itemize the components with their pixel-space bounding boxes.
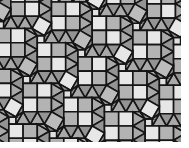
tile-polygon	[133, 85, 147, 99]
tile-polygon	[37, 83, 51, 97]
tile-polygon	[50, 131, 57, 138]
tile-polygon	[119, 85, 133, 99]
tile-polygon	[52, 57, 66, 71]
tile-polygon	[92, 71, 106, 85]
tile-polygon	[92, 30, 106, 44]
tile-polygon	[9, 124, 23, 138]
tile-polygon	[52, 16, 66, 30]
tile-polygon	[104, 112, 118, 126]
tile-polygon	[78, 112, 92, 126]
tile-polygon	[159, 126, 173, 140]
tile-polygon	[147, 30, 161, 44]
tile-polygon	[133, 71, 147, 85]
tiling-pattern	[0, 0, 189, 148]
tile-polygon	[37, 57, 51, 71]
tile-polygon	[11, 29, 25, 43]
tile-polygon	[78, 98, 92, 112]
tile-polygon	[119, 112, 133, 126]
tile-polygon	[106, 16, 120, 30]
tile-polygon	[159, 78, 166, 85]
tile-polygon	[64, 98, 78, 112]
tile-polygon	[23, 124, 37, 138]
tile-polygon	[78, 57, 92, 71]
tile-polygon	[11, 43, 25, 57]
tile-polygon	[133, 23, 140, 30]
tile-polygon	[133, 45, 147, 59]
tile-polygon	[133, 30, 147, 44]
tile-polygon	[145, 119, 152, 126]
tile-polygon	[52, 43, 66, 57]
tile-polygon	[119, 126, 133, 140]
tile-polygon	[145, 126, 159, 140]
tile-polygon	[0, 69, 11, 83]
tile-polygon	[66, 2, 80, 16]
tile-polygon	[37, 43, 51, 57]
tile-polygon	[37, 36, 44, 43]
tile-polygon	[9, 117, 16, 124]
tile-polygon	[161, 4, 175, 18]
tile-polygon	[159, 100, 173, 114]
tile-polygon	[147, 45, 161, 59]
tile-polygon	[64, 112, 78, 126]
tile-polygon	[0, 83, 11, 97]
tile-polygon	[78, 71, 92, 85]
tile-polygon	[66, 16, 80, 30]
tessellation-svg	[0, 0, 189, 148]
tile-polygon	[78, 50, 85, 57]
tile-polygon	[0, 29, 11, 43]
tile-polygon	[159, 85, 173, 99]
tile-polygon	[147, 4, 161, 18]
tile-polygon	[23, 98, 37, 112]
tile-polygon	[23, 76, 30, 83]
tile-polygon	[92, 16, 106, 30]
tile-polygon	[119, 64, 126, 71]
tile-polygon	[92, 9, 99, 16]
tessellation-image	[0, 0, 189, 148]
tile-polygon	[25, 2, 39, 16]
tile-polygon	[52, 2, 66, 16]
tile-polygon	[0, 43, 11, 57]
tile-polygon	[37, 98, 51, 112]
tile-polygon	[106, 30, 120, 44]
tile-polygon	[104, 105, 111, 112]
tile-polygon	[174, 38, 181, 45]
tile-polygon	[23, 83, 37, 97]
tile-polygon	[104, 126, 118, 140]
tile-polygon	[119, 71, 133, 85]
tile-polygon	[64, 90, 71, 97]
tile-polygon	[11, 2, 25, 16]
tile-polygon	[92, 57, 106, 71]
